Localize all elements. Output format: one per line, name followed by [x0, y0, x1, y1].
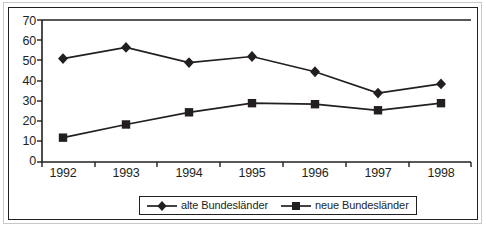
chart-legend: alte Bundesländer neue Bundesländer — [139, 196, 417, 215]
data-point-diamond — [247, 51, 257, 62]
legend-entry-alte-bundeslaender: alte Bundesländer — [147, 200, 268, 212]
data-series-layer — [58, 42, 446, 142]
legend-label: neue Bundesländer — [315, 200, 409, 211]
data-point-square — [311, 100, 319, 108]
data-point-diamond — [310, 66, 320, 77]
data-point-square — [437, 99, 445, 107]
legend-square-marker-icon — [281, 200, 311, 212]
data-point-diamond — [121, 42, 131, 53]
legend-entry-neue-bundeslaender: neue Bundesländer — [281, 200, 409, 212]
legend-label: alte Bundesländer — [181, 200, 268, 211]
series-neue — [59, 99, 445, 142]
data-point-square — [59, 133, 67, 141]
plot-area — [0, 0, 486, 228]
data-point-square — [185, 108, 193, 116]
data-point-diamond — [58, 53, 68, 64]
series-alte — [58, 42, 446, 98]
data-point-square — [122, 120, 130, 128]
legend-diamond-marker-icon — [147, 200, 177, 212]
axis-lines — [42, 20, 471, 162]
data-point-diamond — [184, 57, 194, 68]
data-point-square — [374, 106, 382, 114]
chart-figure: 70 60 50 40 30 20 10 0 1992 1993 1994 19… — [0, 0, 486, 228]
data-point-diamond — [436, 79, 446, 90]
data-point-diamond — [373, 88, 383, 99]
data-point-square — [248, 99, 256, 107]
series-line — [63, 103, 441, 137]
